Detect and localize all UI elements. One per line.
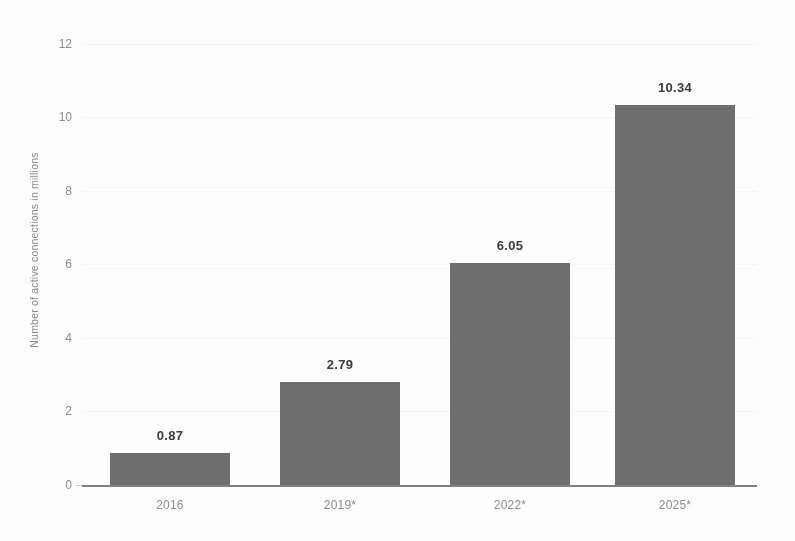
chart-screenshot: Number of active connections in millions… xyxy=(0,0,795,541)
x-tick-label-2019: 2019* xyxy=(324,498,356,512)
y-tick-label-12: 12 xyxy=(48,37,72,51)
bar-value-2019: 2.79 xyxy=(327,357,354,372)
y-tick-label-0: 0 xyxy=(48,478,72,492)
bar-2025[interactable] xyxy=(615,105,735,485)
bar-value-2025: 10.34 xyxy=(658,80,692,95)
bar-value-2016: 0.87 xyxy=(157,428,184,443)
bar-2016[interactable] xyxy=(110,453,230,485)
y-tick-label-10: 10 xyxy=(48,110,72,124)
y-tick-label-2: 2 xyxy=(48,404,72,418)
x-tick-label-2016: 2016 xyxy=(156,498,184,512)
x-tick-label-2022: 2022* xyxy=(494,498,526,512)
gridline-12 xyxy=(82,44,757,45)
y-tick-label-8: 8 xyxy=(48,184,72,198)
bar-value-2022: 6.05 xyxy=(497,238,524,253)
y-tick-label-4: 4 xyxy=(48,331,72,345)
bar-2019[interactable] xyxy=(280,382,400,485)
y-tick-label-6: 6 xyxy=(48,257,72,271)
x-tick-label-2025: 2025* xyxy=(659,498,691,512)
y-axis-title: Number of active connections in millions xyxy=(28,152,40,347)
bar-chart: Number of active connections in millions… xyxy=(0,0,795,541)
x-axis-line xyxy=(82,485,757,487)
bar-2022[interactable] xyxy=(450,263,570,485)
